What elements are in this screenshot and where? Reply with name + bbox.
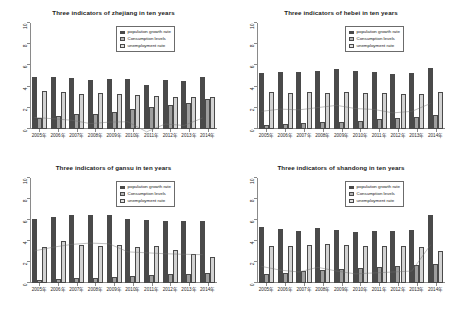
chart-panel-shandong: Three indicators of shandong in ten year… [227,155,455,309]
y-tick-label: 6 [251,66,256,69]
legend-label: population growth rate [357,29,400,36]
legend-swatch-icon [120,37,125,41]
x-tick [266,283,267,286]
legend-item: unemployment rate [120,198,171,205]
x-tick [77,129,78,132]
bar-0 [334,69,339,129]
x-tick-label: 2005年 [259,134,274,139]
x-tick [189,283,190,286]
x-tick-label: 2014年 [428,134,443,139]
x-tick [342,283,343,286]
bar-0 [69,215,74,283]
x-tick [304,129,305,132]
x-tick [208,129,209,132]
bar-0 [296,72,301,129]
x-tick [114,283,115,286]
y-tick-label: 8 [251,200,256,203]
bar-2 [307,245,312,283]
x-tick-label: 2014年 [200,288,215,293]
bar-0 [107,215,112,283]
x-tick-label: 2005年 [32,288,47,293]
x-tick-label: 2011年 [372,288,387,293]
x-tick-label: 2005年 [259,288,274,293]
x-tick-label: 2013年 [181,134,196,139]
bar-2 [191,254,196,283]
y-tick-label: 10 [24,24,29,30]
chart-legend: population growth rateConsumption levels… [345,181,404,207]
legend-swatch-icon [349,37,354,41]
bar-2 [191,97,196,129]
x-tick [436,129,437,132]
bar-2 [61,92,66,129]
y-tick-label: 10 [251,179,256,185]
legend-label: unemployment rate [357,198,395,205]
legend-item: unemployment rate [349,43,400,50]
legend-label: unemployment rate [357,43,395,50]
bar-0 [144,220,149,283]
x-tick [379,283,380,286]
x-tick [170,129,171,132]
bar-2 [210,97,215,129]
bar-0 [259,73,264,129]
x-tick [398,283,399,286]
y-tick-label: 2 [24,263,29,266]
x-tick [436,283,437,286]
legend-item: Consumption levels [349,36,400,43]
y-tick-label: 6 [24,221,29,224]
bar-0 [278,72,283,129]
bar-2 [419,247,424,283]
x-tick [323,129,324,132]
chart-panel-hebei: Three indicators of hebei in ten years 0… [227,0,455,155]
x-tick-label: 2008年 [88,288,103,293]
legend-item: population growth rate [349,184,400,191]
x-tick [39,129,40,132]
chart-panel-gansu: Three indicators of gansu in ten years 0… [0,155,227,309]
x-tick [39,283,40,286]
x-tick-label: 2010年 [353,288,368,293]
x-tick [208,283,209,286]
y-tick-label: 6 [24,66,29,69]
bar-2 [269,92,274,129]
x-tick [266,129,267,132]
x-tick [304,283,305,286]
legend-item: Consumption levels [120,191,171,198]
bar-2 [401,94,406,129]
bar-2 [98,93,103,129]
bar-2 [401,246,406,283]
bar-2 [210,257,215,283]
y-tick-label: 0 [24,284,29,287]
bar-2 [173,250,178,283]
legend-swatch-icon [349,199,354,203]
bar-2 [344,245,349,283]
bar-0 [51,217,56,283]
x-tick-label: 2007年 [296,134,311,139]
legend-swatch-icon [349,192,354,196]
legend-item: population growth rate [120,29,171,36]
x-tick-label: 2007年 [296,288,311,293]
x-tick [133,129,134,132]
legend-item: population growth rate [349,29,400,36]
bar-2 [42,91,47,129]
legend-label: unemployment rate [128,198,166,205]
x-tick [152,129,153,132]
x-tick-label: 2013年 [181,288,196,293]
legend-item: Consumption levels [120,36,171,43]
x-tick-label: 2006年 [278,288,293,293]
bar-2 [382,93,387,129]
x-tick-label: 2008年 [88,134,103,139]
x-tick-label: 2010年 [125,288,140,293]
charts-grid: Three indicators of zhejiang in ten year… [0,0,455,309]
bar-2 [98,246,103,283]
y-tick-label: 2 [251,108,256,111]
x-tick-label: 2009年 [334,288,349,293]
y-tick-label: 4 [251,87,256,90]
chart-title: Three indicators of zhejiang in ten year… [0,9,227,16]
bar-0 [88,215,93,283]
legend-item: population growth rate [120,184,171,191]
x-tick [417,129,418,132]
x-tick-label: 2010年 [353,134,368,139]
bar-2 [344,92,349,129]
legend-item: unemployment rate [349,198,400,205]
x-tick-label: 2011年 [372,134,387,139]
bar-2 [117,245,122,283]
